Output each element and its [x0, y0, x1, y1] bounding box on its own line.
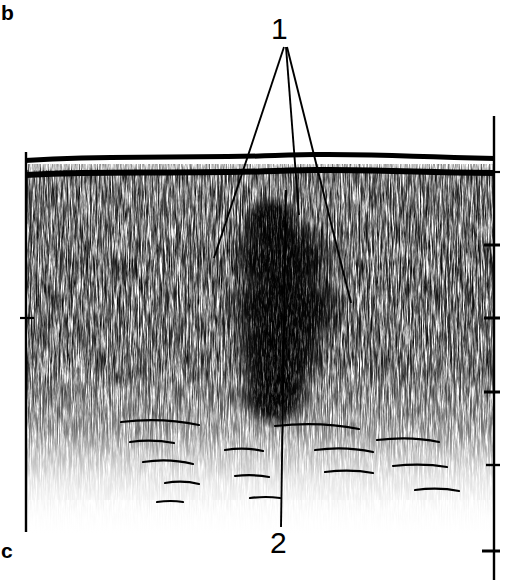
depth-attenuation-overlay: [25, 430, 495, 535]
sonogram-image: [25, 150, 495, 535]
callout-label-2: 2: [270, 528, 287, 558]
panel-letter-b: b: [1, 2, 14, 23]
ultrasound-figure-panel: b c 1 2: [0, 0, 511, 587]
callout-label-1: 1: [271, 14, 288, 44]
sonogram-canvas: [25, 150, 495, 535]
panel-letter-c: c: [1, 540, 13, 561]
